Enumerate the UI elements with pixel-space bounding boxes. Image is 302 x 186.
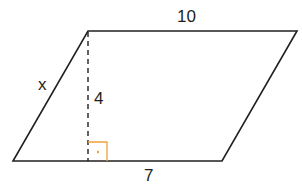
parallelogram-shape (13, 31, 297, 161)
parallelogram-diagram: 10 x 4 7 (0, 0, 302, 186)
label-height: 4 (94, 90, 103, 107)
label-bottom-segment: 7 (144, 167, 153, 184)
label-left-side: x (38, 76, 47, 93)
label-top-side: 10 (177, 8, 196, 25)
right-angle-dot-icon (97, 151, 99, 153)
